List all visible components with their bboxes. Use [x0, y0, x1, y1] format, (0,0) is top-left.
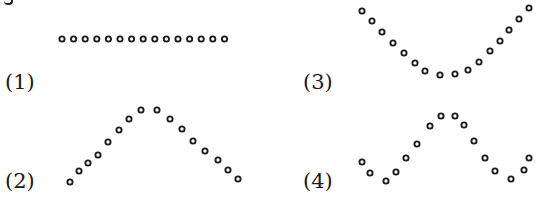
dot	[67, 179, 72, 184]
panel-4-dots	[359, 113, 531, 183]
dot	[379, 29, 384, 34]
dot	[76, 168, 81, 173]
dot	[154, 107, 159, 112]
dot	[164, 36, 169, 41]
dot	[487, 48, 492, 53]
dot	[438, 113, 443, 118]
dot	[202, 148, 207, 153]
dot	[497, 38, 502, 43]
dot	[452, 113, 457, 118]
panel-1-dots	[59, 36, 227, 41]
dot	[179, 126, 184, 131]
dot-pattern-figure: (1) (2) (3) (4)	[0, 0, 539, 198]
dot	[521, 167, 526, 172]
dot	[414, 141, 419, 146]
panel-3-dots	[359, 5, 531, 77]
dot	[167, 116, 172, 121]
dot	[390, 40, 395, 45]
dot	[187, 36, 192, 41]
dot	[369, 18, 374, 23]
panel-1-label: (1)	[5, 72, 35, 93]
dot	[437, 72, 442, 77]
dot	[476, 59, 481, 64]
dot	[71, 36, 76, 41]
dot	[141, 36, 146, 41]
dot	[452, 71, 457, 76]
dot	[105, 139, 110, 144]
dot	[129, 36, 134, 41]
dot	[117, 36, 122, 41]
dot	[126, 116, 131, 121]
dot	[225, 167, 230, 172]
dot	[222, 36, 227, 41]
dot	[190, 138, 195, 143]
dot	[403, 155, 408, 160]
dot	[359, 159, 364, 164]
dot	[138, 107, 143, 112]
dot	[471, 138, 476, 143]
dot	[383, 178, 388, 183]
dot	[422, 68, 427, 73]
dot	[59, 36, 64, 41]
panel-4-label: (4)	[303, 171, 333, 192]
dot	[95, 152, 100, 157]
dot	[215, 157, 220, 162]
dot	[526, 155, 531, 160]
dot	[367, 170, 372, 175]
dot	[175, 36, 180, 41]
dot	[516, 16, 521, 21]
dot	[465, 67, 470, 72]
dot	[427, 123, 432, 128]
dot	[401, 50, 406, 55]
panel-2-label: (2)	[5, 171, 35, 192]
dot	[199, 36, 204, 41]
dot	[94, 36, 99, 41]
dot	[106, 36, 111, 41]
dot	[210, 36, 215, 41]
dot	[506, 27, 511, 32]
dot	[492, 168, 497, 173]
dot	[508, 176, 513, 181]
panel-3-label: (3)	[303, 72, 333, 93]
dot	[235, 176, 240, 181]
dot	[116, 127, 121, 132]
dot	[526, 5, 531, 10]
dot	[393, 169, 398, 174]
dot	[359, 8, 364, 13]
dot	[461, 122, 466, 127]
dot	[85, 160, 90, 165]
dot-plots	[0, 0, 539, 198]
dot	[152, 36, 157, 41]
dot	[83, 36, 88, 41]
dot	[412, 60, 417, 65]
panel-2-dots	[67, 107, 240, 184]
dot	[482, 155, 487, 160]
